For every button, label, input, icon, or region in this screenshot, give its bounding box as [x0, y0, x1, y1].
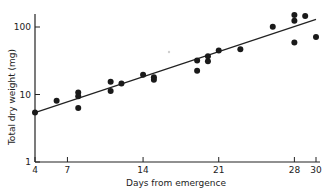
chart: 1101004714212830 Days from emergence Tot…	[0, 0, 330, 192]
x-axis-label: Days from emergence	[126, 178, 226, 188]
axes: 1101004714212830	[14, 14, 322, 175]
data-point	[205, 58, 211, 64]
x-tick-label: 4	[32, 165, 38, 175]
data-point	[75, 105, 81, 111]
data-point	[291, 18, 297, 24]
artifact-dot	[168, 51, 170, 53]
x-tick-label: 30	[310, 165, 322, 175]
data-point	[194, 68, 200, 74]
data-point	[54, 98, 60, 104]
data-point	[291, 12, 297, 18]
data-point	[75, 93, 81, 99]
y-axis-label: Total dry weight (mg)	[7, 49, 17, 146]
data-point	[302, 13, 308, 19]
data-point	[313, 34, 319, 40]
y-tick-label: 100	[14, 22, 31, 32]
x-tick-label: 7	[65, 165, 71, 175]
y-tick-label: 10	[20, 90, 32, 100]
data-point	[151, 77, 157, 83]
data-point	[140, 72, 146, 78]
data-point	[108, 88, 114, 94]
x-tick-label: 14	[137, 165, 149, 175]
data-points	[32, 12, 319, 115]
chart-svg: 1101004714212830 Days from emergence Tot…	[0, 0, 330, 192]
data-point	[216, 47, 222, 53]
data-point	[270, 24, 276, 30]
y-tick-label: 1	[25, 157, 31, 167]
x-tick-label: 21	[213, 165, 224, 175]
data-point	[237, 46, 243, 52]
data-point	[194, 57, 200, 63]
data-point	[205, 53, 211, 59]
data-point	[118, 81, 124, 87]
data-point	[32, 110, 38, 116]
data-point	[291, 39, 297, 45]
data-point	[108, 79, 114, 85]
x-tick-label: 28	[289, 165, 301, 175]
